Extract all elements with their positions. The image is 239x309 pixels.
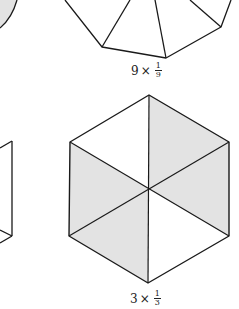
nonagon-fraction: 1 9 (155, 62, 162, 79)
left-partial-hexagon-shape (0, 141, 12, 243)
hexagon-fraction: 1 3 (154, 290, 161, 307)
fraction-denominator: 3 (155, 299, 160, 307)
times-symbol: × (140, 292, 150, 306)
nonagon-count: 9 (131, 64, 139, 78)
partial-circle-shape (0, 0, 17, 28)
fraction-diagram (0, 0, 239, 309)
nonagon-shape (65, 0, 231, 58)
nonagon-label: 9 × 1 9 (131, 62, 162, 79)
fraction-denominator: 9 (156, 71, 161, 79)
hexagon-count: 3 (130, 292, 138, 306)
hexagon-shape (69, 95, 229, 283)
hexagon-label: 3 × 1 3 (130, 290, 161, 307)
times-symbol: × (141, 64, 151, 78)
